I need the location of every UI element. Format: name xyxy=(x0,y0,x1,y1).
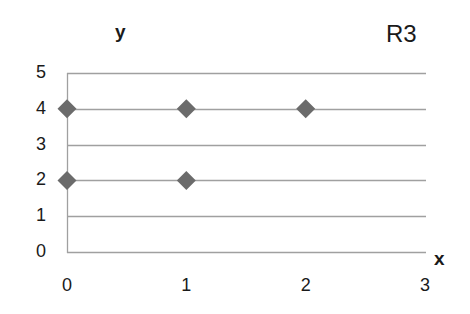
scatter-chart: y R3 x 012345 0123 xyxy=(0,0,470,314)
x-tick-label: 2 xyxy=(291,276,321,294)
chart-title: R3 xyxy=(386,22,417,46)
x-tick-label: 1 xyxy=(171,276,201,294)
diamond-marker-icon xyxy=(177,99,196,118)
y-tick-label: 1 xyxy=(16,206,46,224)
y-tick-label: 3 xyxy=(16,135,46,153)
plot-area xyxy=(0,0,470,314)
x-tick-label: 3 xyxy=(410,276,440,294)
y-tick-label: 0 xyxy=(16,242,46,260)
diamond-marker-icon xyxy=(296,99,315,118)
y-axis-title: y xyxy=(115,22,126,41)
x-tick-label: 0 xyxy=(52,276,82,294)
diamond-marker-icon xyxy=(177,171,196,190)
y-tick-label: 2 xyxy=(16,170,46,188)
diamond-marker-icon xyxy=(58,171,77,190)
diamond-marker-icon xyxy=(58,99,77,118)
y-tick-label: 4 xyxy=(16,99,46,117)
x-axis-title: x xyxy=(434,249,445,268)
y-tick-label: 5 xyxy=(16,63,46,81)
